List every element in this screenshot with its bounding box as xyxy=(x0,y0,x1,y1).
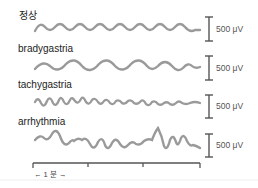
scale-label-arrhythmia: 500 μV xyxy=(216,140,243,150)
scale-label-normal: 500 μV xyxy=(216,24,243,34)
trace-arrhythmia xyxy=(35,128,200,148)
scale-bars xyxy=(205,17,213,157)
trace-bradygastria xyxy=(35,60,200,70)
trace-tachygastria xyxy=(35,98,200,106)
scale-label-tachygastria: 500 μV xyxy=(216,101,243,111)
scale-label-bradygastria: 500 μV xyxy=(216,63,243,73)
trace-normal xyxy=(35,24,200,31)
time-scale-label: ← 1 분 → xyxy=(34,168,66,179)
